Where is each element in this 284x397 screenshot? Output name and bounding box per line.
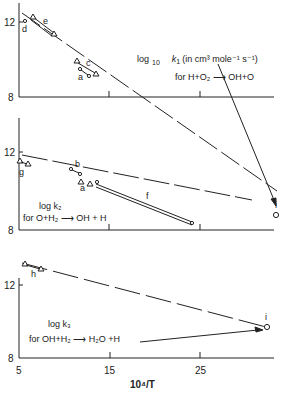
panel2-series-f [96, 184, 192, 222]
panel3-point-label-i: i [265, 312, 267, 322]
panel2-marker-a2 [87, 181, 93, 186]
panel2-marker-f-end [190, 221, 193, 224]
arrhenius-chart: 12 8 d e c a log10k1(in cm³ mole⁻¹ s⁻¹) … [0, 0, 284, 397]
panel-1 [19, 3, 277, 206]
panel2-ytick-label-8: 8 [8, 225, 14, 236]
panel2-ytick-label-12: 12 [4, 147, 16, 158]
panel2-point-label-f: f [146, 191, 149, 201]
xtick-label-15: 15 [104, 365, 116, 376]
xtick-label-5: 5 [16, 365, 22, 376]
panel1-ytick-label-12: 12 [4, 17, 16, 28]
panel2-fit-line [22, 155, 252, 200]
arrowhead-icon [255, 327, 263, 332]
panel1-marker-d [23, 19, 26, 22]
panel3-fit-line [22, 263, 266, 327]
panel1-ytick-label-8: 8 [8, 92, 14, 103]
panel1-point-label-d: d [22, 24, 27, 34]
panel1-marker-e1 [30, 14, 36, 19]
panel1-marker-c2 [93, 71, 99, 76]
panel1-point-label-a: a [78, 72, 83, 82]
panel3-marker-i [264, 324, 269, 329]
panel2-series-b [72, 170, 79, 173]
panel3-arrow-to-i [140, 330, 258, 342]
panel2-title: log k₂ [39, 201, 62, 211]
panel1-series-e-2 [31, 20, 52, 36]
panel1-marker-c1 [74, 58, 80, 63]
panel3-reaction: for OH+H₂ ⟶ H₂O +H [29, 334, 120, 344]
panel1-arrow-to-i [218, 64, 274, 200]
panel1-point-label-c: c [86, 58, 91, 68]
panel1-title: log10k1(in cm³ mole⁻¹ s⁻¹) [137, 54, 258, 66]
panel1-fit-line [22, 13, 277, 191]
panel3-point-label-h: h [31, 269, 36, 279]
x-axis-title: 10⁴/T [130, 379, 155, 390]
panel3-title: log k₃ [48, 319, 71, 329]
panel3-ytick-label-12: 12 [4, 280, 16, 291]
panel2-marker-a3 [95, 180, 98, 183]
xtick-label-25: 25 [195, 365, 207, 376]
panel2-series-f-2 [96, 187, 192, 225]
panel2-point-label-a: a [80, 183, 85, 193]
panel2-marker-i [273, 212, 278, 217]
panel1-point-label-i: i [275, 200, 277, 210]
panel2-point-label-g: g [19, 167, 24, 177]
panel1-point-label-e: e [43, 16, 48, 26]
panel2-reaction: for O+H₂ ⟶ OH + H [23, 213, 107, 223]
panel1-reaction: for H+O₂ ⟶ OH+O [175, 72, 254, 82]
panel3-ytick-label-8: 8 [8, 353, 14, 364]
panel2-point-label-b: b [75, 159, 80, 169]
